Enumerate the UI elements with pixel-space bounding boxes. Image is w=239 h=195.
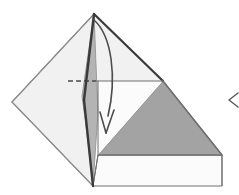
origami-illustration (0, 0, 239, 195)
bottom-white-band (93, 155, 222, 186)
origami-diagram-figure (0, 0, 239, 195)
